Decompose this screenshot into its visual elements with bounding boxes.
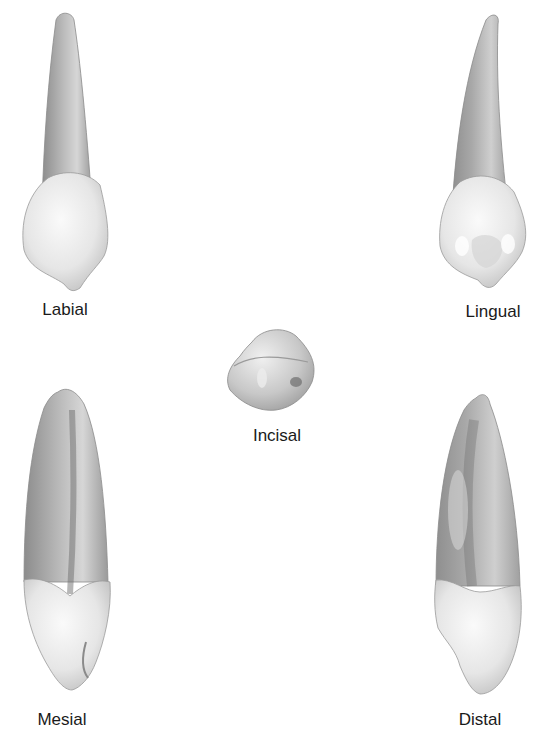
labial-view: Labial — [0, 0, 160, 340]
mesial-label: Mesial — [37, 710, 86, 730]
incisal-label: Incisal — [253, 426, 301, 446]
lingual-tooth-illustration — [400, 0, 545, 300]
distal-tooth-illustration — [400, 380, 545, 700]
incisal-view: Incisal — [200, 320, 340, 450]
distal-label: Distal — [459, 710, 502, 730]
labial-tooth-illustration — [0, 0, 160, 300]
lingual-view: Lingual — [400, 0, 545, 340]
distal-view: Distal — [400, 380, 545, 732]
lingual-label: Lingual — [466, 302, 521, 322]
incisal-tooth-illustration — [200, 320, 340, 420]
mesial-view: Mesial — [0, 380, 140, 732]
mesial-tooth-illustration — [0, 380, 140, 700]
labial-label: Labial — [42, 300, 87, 320]
